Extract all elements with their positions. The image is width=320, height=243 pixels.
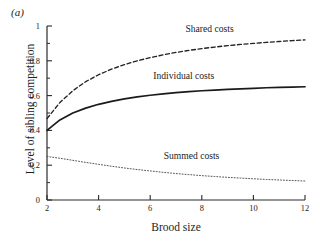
y-tick-label: 0: [36, 196, 40, 205]
x-tick-label: 6: [148, 204, 152, 213]
curve-label-individual-costs: Individual costs: [153, 70, 214, 81]
x-tick-label: 4: [97, 204, 102, 213]
y-tick-label: 0.2: [30, 161, 40, 170]
x-tick-label: 2: [45, 204, 49, 213]
curve-individual-costs: [47, 87, 305, 131]
x-tick-label: 8: [200, 204, 204, 213]
y-tick-label: 0.8: [30, 57, 40, 66]
y-tick-label: 0.6: [30, 92, 40, 101]
x-tick-label: 12: [301, 204, 309, 213]
curve-label-shared-costs: Shared costs: [185, 23, 233, 34]
y-axis-ticks: 00.20.40.60.81: [30, 22, 52, 205]
curve-label-summed-costs: Summed costs: [164, 150, 220, 161]
x-axis-ticks: 24681012: [45, 195, 309, 213]
y-tick-label: 0.4: [30, 126, 41, 135]
y-tick-label: 1: [36, 22, 40, 31]
figure-panel-a: (a) Level of sibling competition Brood s…: [0, 0, 320, 243]
x-tick-label: 10: [249, 204, 257, 213]
plot-area: 00.20.40.60.81 24681012 Shared costsIndi…: [0, 0, 320, 243]
